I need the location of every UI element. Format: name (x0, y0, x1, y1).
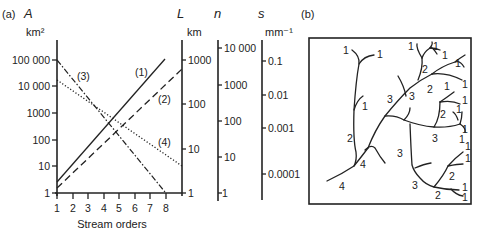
l-tick: 1000 (188, 54, 212, 66)
order-label: 3 (412, 179, 418, 191)
order-label: 1 (442, 49, 448, 61)
order-label: 1 (456, 103, 462, 115)
x-axis: 1 2 3 4 5 6 7 8 Stream orders (54, 193, 182, 230)
order-label: 1 (444, 80, 450, 92)
axis-a: 100 000 10 000 1000 100 10 1 (12, 40, 57, 199)
x-axis-title: Stream orders (77, 218, 147, 230)
order-label: 1 (362, 100, 368, 112)
n-tick: 100 (224, 115, 242, 127)
order-label: 1 (455, 57, 461, 69)
x-tick: 6 (132, 202, 138, 214)
order-label: 1 (465, 140, 471, 152)
order-label: 2 (427, 83, 433, 95)
n-tick: 1000 (224, 79, 248, 91)
order-label: 2 (435, 189, 441, 201)
order-label: 1 (433, 40, 439, 52)
x-tick: 2 (70, 202, 76, 214)
a-tick: 1000 (27, 107, 51, 119)
x-tick: 3 (85, 202, 91, 214)
order-label: 1 (462, 78, 468, 90)
a-tick: 10 000 (18, 80, 50, 92)
axis-l-symbol: L (177, 6, 184, 21)
panel-b-label: (b) (301, 8, 314, 20)
order-label: 4 (360, 158, 366, 170)
x-tick: 7 (147, 202, 153, 214)
l-tick: 100 (188, 98, 206, 110)
s-tick: 0.0001 (268, 168, 300, 180)
order-label: 2 (440, 108, 446, 120)
order-label: 1 (465, 152, 471, 164)
series-4-label: (4) (158, 136, 171, 148)
plot-lines (57, 59, 182, 192)
x-tick: 8 (163, 202, 169, 214)
order-label: 2 (347, 132, 353, 144)
x-tick: 4 (101, 202, 107, 214)
order-label: 3 (397, 147, 403, 159)
order-label: 3 (387, 93, 393, 105)
order-label: 1 (408, 40, 414, 52)
series-2-line (57, 69, 182, 188)
series-1-label: (1) (135, 66, 148, 78)
a-tick: 1 (44, 187, 50, 199)
a-tick: 100 (32, 134, 50, 146)
a-tick: 10 (38, 160, 50, 172)
s-tick: 0.01 (268, 89, 289, 101)
a-tick: 100 000 (12, 54, 50, 66)
axis-l: L km 1000 100 10 1 (177, 6, 212, 199)
series-1-line (57, 59, 165, 182)
s-tick: 0.1 (268, 55, 283, 67)
figure: (a) A km² 100 000 10 000 1000 100 10 1 1… (0, 0, 483, 235)
s-tick: 0.001 (268, 122, 294, 134)
order-label: 1 (377, 48, 383, 60)
axis-a-symbol: A (23, 6, 33, 21)
order-label: 3 (432, 132, 438, 144)
x-tick: 1 (54, 202, 60, 214)
order-label: 2 (422, 63, 428, 75)
n-tick: 1 (222, 187, 228, 199)
axis-l-unit: km (187, 26, 202, 38)
axis-a-unit: km² (26, 26, 45, 38)
axis-n-symbol: n (214, 6, 221, 21)
network-frame (309, 38, 471, 204)
order-label: 1 (343, 44, 349, 56)
series-2-label: (2) (158, 93, 171, 105)
order-label: 4 (339, 180, 345, 192)
panel-a-label: (a) (2, 8, 15, 20)
order-label: 1 (462, 191, 468, 203)
order-label: 2 (449, 170, 455, 182)
n-tick: 10 (224, 151, 236, 163)
l-tick: 10 (188, 143, 200, 155)
order-label: 1 (462, 94, 468, 106)
x-tick: 5 (116, 202, 122, 214)
order-label: 1 (459, 133, 465, 145)
order-label: 3 (409, 90, 415, 102)
series-3-label: (3) (77, 70, 90, 82)
l-tick: 1 (188, 187, 194, 199)
axis-n: n 10 000 1000 100 10 1 (214, 6, 256, 201)
n-tick: 10 000 (224, 42, 256, 54)
axis-s-unit: mm⁻¹ (265, 26, 293, 38)
axis-s: s mm⁻¹ 0.1 0.01 0.001 0.0001 (258, 6, 300, 200)
axis-s-symbol: s (258, 6, 265, 21)
